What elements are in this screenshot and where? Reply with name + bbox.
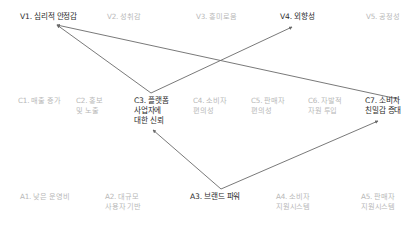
attribute-node-a1: A1. 낮은 운영비: [20, 192, 69, 202]
consequence-node-c1: C1. 매출 증가: [18, 96, 61, 106]
consequence-node-c2: C2. 홍보 및 노출: [76, 96, 103, 116]
attribute-node-a3: A3. 브랜드 파워: [190, 192, 240, 202]
value-node-v1: V1. 심리적 안정감: [20, 12, 77, 22]
value-node-v2: V2. 성취감: [107, 12, 141, 22]
consequence-node-c7: C7. 소비자 친밀감 증대: [365, 96, 401, 116]
consequence-node-c6: C6. 자발적 자원 투입: [308, 96, 342, 116]
edge-c3-v4: [151, 27, 292, 93]
edge-c3-v1: [57, 25, 151, 93]
consequence-node-c4: C4. 소비자 편의성: [193, 96, 227, 116]
means-end-ladder-diagram: V1. 심리적 안정감 V2. 성취감 V3. 흥미로움 V4. 외향성 V5.…: [0, 0, 419, 225]
value-node-v4: V4. 외향성: [280, 12, 314, 22]
edge-c7-v1: [57, 25, 398, 99]
edge-a3-c7: [221, 121, 378, 189]
edge-a3-c3: [153, 130, 221, 189]
attribute-node-a2: A2. 대규모 사용자 기반: [105, 192, 141, 212]
consequence-node-c5: C5. 판매자 편의성: [251, 96, 285, 116]
consequence-node-c3: C3. 플랫폼 사업자에 대한 신뢰: [134, 96, 169, 126]
value-node-v5: V5. 공정성: [366, 12, 400, 22]
attribute-node-a5: A5. 판매자 지원시스템: [361, 192, 395, 212]
value-node-v3: V3. 흥미로움: [196, 12, 236, 22]
attribute-node-a4: A4. 소비자 지원시스템: [276, 192, 310, 212]
